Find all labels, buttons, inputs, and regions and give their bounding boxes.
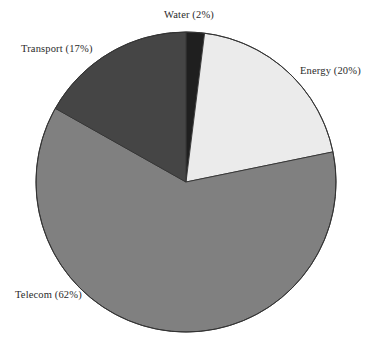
pie-chart: Water (2%) Energy (20%) Telecom (62%) Tr… [0,0,390,342]
slice-label-water: Water (2%) [164,9,214,21]
slice-label-telecom: Telecom (62%) [15,289,82,301]
pie-slice-group [36,32,336,332]
slice-label-energy: Energy (20%) [300,65,361,77]
slice-label-transport: Transport (17%) [21,43,93,55]
